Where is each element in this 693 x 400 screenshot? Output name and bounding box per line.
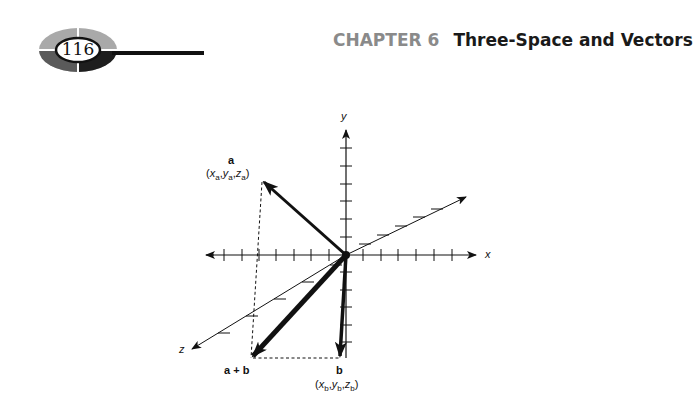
- vector-a-label: a: [228, 154, 234, 166]
- vector-a-plus-b-label: a + b: [224, 364, 249, 376]
- z-axis-label: z: [179, 343, 185, 355]
- vector-b-label: b: [336, 364, 343, 376]
- origin-point: [342, 251, 350, 259]
- x-axis-label: x: [485, 248, 491, 260]
- vector-a-plus-b: [253, 255, 346, 356]
- vector-b: [340, 255, 346, 356]
- vector-a-coords: (xa,ya,za): [206, 167, 249, 182]
- y-axis-label: y: [341, 110, 347, 122]
- vector-a: [264, 182, 346, 255]
- vector-b-coords: (xb,yb,zb): [315, 378, 358, 393]
